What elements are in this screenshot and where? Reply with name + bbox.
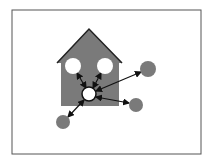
node-window-right: [97, 58, 113, 74]
house-network-diagram: [0, 0, 209, 161]
node-outer-lower-left: [56, 115, 70, 129]
node-hub: [82, 87, 96, 101]
node-window-left: [65, 58, 81, 74]
node-outer-upper-right: [140, 61, 156, 77]
house-roof: [57, 29, 122, 63]
node-outer-lower-right: [129, 98, 143, 112]
